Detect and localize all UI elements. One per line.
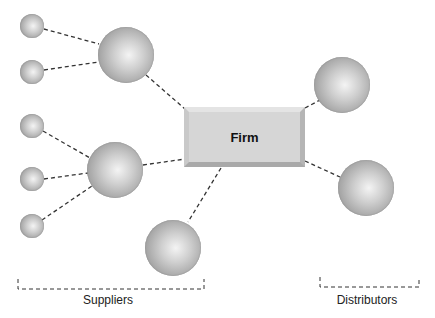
supplier-node bbox=[87, 142, 143, 198]
distributor-node bbox=[314, 57, 370, 113]
connection-line bbox=[44, 62, 99, 70]
small-supplier-node bbox=[20, 114, 44, 138]
connection-line bbox=[143, 159, 185, 165]
small-supplier-node bbox=[20, 14, 44, 38]
supplier-node bbox=[145, 220, 201, 276]
connection-line bbox=[44, 29, 99, 44]
distributor-node bbox=[338, 160, 394, 216]
connection-line bbox=[305, 161, 340, 177]
small-supplier-node bbox=[20, 167, 44, 191]
connection-line bbox=[43, 131, 90, 158]
distributors-label: Distributors bbox=[337, 293, 398, 307]
connection-line bbox=[305, 100, 320, 108]
suppliers-bracket bbox=[18, 279, 204, 289]
supplier-node bbox=[98, 27, 154, 83]
small-supplier-node bbox=[20, 60, 44, 84]
connection-line bbox=[42, 186, 92, 220]
small-supplier-node bbox=[20, 214, 44, 238]
firm-box: Firm bbox=[184, 107, 305, 167]
suppliers-label: Suppliers bbox=[83, 293, 133, 307]
supply-chain-diagram: Firm Suppliers Distributors bbox=[0, 0, 435, 318]
firm-label: Firm bbox=[230, 130, 258, 145]
connection-line bbox=[146, 75, 185, 109]
distributors-bracket bbox=[320, 277, 419, 287]
connection-line bbox=[188, 168, 221, 222]
connection-line bbox=[44, 173, 88, 179]
